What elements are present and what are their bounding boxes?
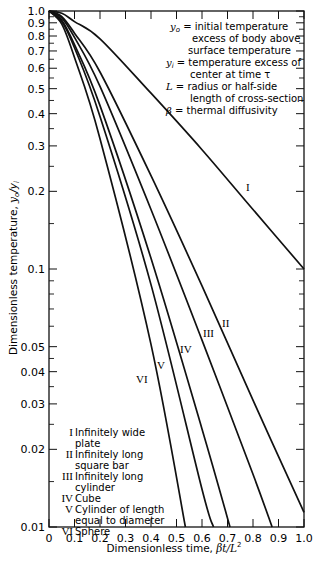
y-tick-label: 0.7 <box>28 45 46 58</box>
curve-label-I: I <box>246 181 250 193</box>
legend-text: plate <box>75 438 100 449</box>
legend-numeral: III <box>62 470 73 482</box>
chart: 1.00.90.80.70.60.50.40.30.20.10.050.040.… <box>0 0 319 570</box>
legend-text: Infinitely long <box>75 471 143 482</box>
legend-text: Infinitely long <box>75 449 143 460</box>
note-line: L = radius or half-side <box>165 81 277 92</box>
curve-label-III: III <box>203 327 214 339</box>
y-tick-label: 0.01 <box>21 521 46 534</box>
note-line: surface temperature <box>188 45 291 56</box>
curve-label-II: II <box>222 317 230 329</box>
y-tick-label: 0.4 <box>28 108 46 121</box>
curve-label-VI: VI <box>136 373 148 385</box>
x-tick-label: 0.8 <box>244 532 262 545</box>
y-tick-label: 0.05 <box>21 341 46 354</box>
y-tick-label: 0.02 <box>21 443 46 456</box>
legend-text: cylinder <box>75 482 116 493</box>
legend-text: Cylinder of length <box>75 504 164 515</box>
legend-numeral: II <box>66 448 74 460</box>
x-tick-label: 1.0 <box>295 532 313 545</box>
note-line: excess of body above <box>192 33 300 44</box>
y-tick-label: 0.6 <box>28 62 46 75</box>
note-line: center at time τ <box>190 69 270 80</box>
y-axis-label: Dimensionless temperature, yo/yi <box>7 181 21 355</box>
legend-numeral: I <box>69 426 73 438</box>
x-tick-label: 0 <box>46 532 53 545</box>
legend-text: equal to diameter <box>75 515 165 526</box>
note-line: length of cross-section <box>190 93 303 104</box>
note-line: β = thermal diffusivity <box>165 105 278 116</box>
legend-text: square bar <box>75 460 130 471</box>
y-tick-label: 0.3 <box>28 140 46 153</box>
legend-numeral: VI <box>61 525 73 537</box>
y-tick-label: 0.04 <box>21 366 46 379</box>
y-tick-label: 0.8 <box>28 30 46 43</box>
legend-text: Cube <box>75 493 101 504</box>
legend-text: Sphere <box>75 526 110 537</box>
y-tick-label: 0.5 <box>28 83 46 96</box>
definitions-note: yo = initial temperatureexcess of body a… <box>165 21 303 116</box>
x-axis-label: Dimensionless time, βt/L2 <box>106 541 241 554</box>
curve-label-V: V <box>157 359 165 371</box>
y-tick-label: 0.1 <box>28 263 46 276</box>
curve-label-IV: IV <box>180 343 192 355</box>
y-tick-label: 0.9 <box>28 17 46 30</box>
x-tick-label: 0.9 <box>270 532 288 545</box>
y-tick-label: 0.03 <box>21 398 46 411</box>
y-tick-label: 0.2 <box>28 185 46 198</box>
legend-text: Infinitely wide <box>75 427 145 438</box>
legend: IInfinitely wideplateIIInfinitely longsq… <box>61 426 165 537</box>
legend-numeral: V <box>65 503 73 515</box>
